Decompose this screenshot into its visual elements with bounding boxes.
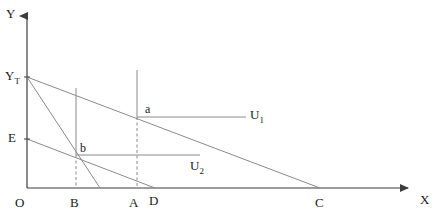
curve-label-U2: U2 (190, 159, 204, 176)
x-tick-label-A: A (129, 196, 138, 209)
point-label-b: b (80, 142, 86, 154)
curve-label-U1-text: U (250, 107, 259, 122)
x-tick-label-D: D (149, 194, 158, 207)
y-axis-label: Y (6, 7, 15, 20)
y-tick-label-YT: YT (5, 69, 20, 86)
curve-label-U1-subscript: 1 (259, 115, 264, 125)
y-tick-label-YT-text: Y (5, 68, 14, 83)
x-axis-label: X (420, 193, 429, 206)
y-tick-label-YT-subscript: T (14, 76, 20, 86)
diagram-canvas: Y X YT E O B A D C a b U1 U2 (0, 0, 437, 219)
x-tick-label-C: C (315, 196, 324, 209)
point-label-a: a (145, 103, 150, 115)
origin-label: O (15, 196, 24, 209)
y-tick-label-E: E (8, 131, 16, 144)
x-tick-label-B: B (70, 196, 79, 209)
budget-line-steep (27, 77, 100, 188)
curve-label-U2-text: U (190, 158, 199, 173)
budget-line-full (27, 77, 320, 188)
diagram-svg (0, 0, 437, 219)
curve-label-U1: U1 (250, 108, 264, 125)
endowment-line (27, 139, 155, 188)
curve-label-U2-subscript: 2 (199, 166, 204, 176)
